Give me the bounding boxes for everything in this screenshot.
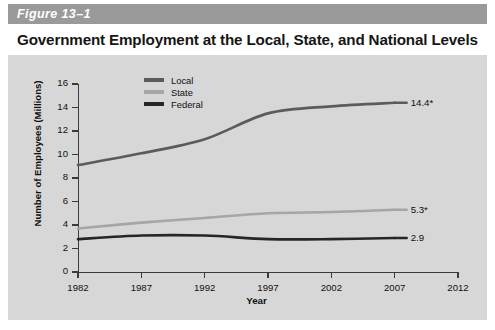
series-line-federal: [78, 235, 395, 239]
figure-number-label: Figure 13–1: [8, 7, 91, 21]
figure-title-bar: Government Employment at the Local, Stat…: [8, 26, 487, 53]
plot-area: [8, 55, 487, 320]
figure-number-band: Figure 13–1: [8, 4, 487, 24]
series-label-local: 14.4*: [411, 97, 434, 108]
chart-panel: Number of Employees (Millions) Year 0246…: [8, 55, 487, 320]
figure-card: Figure 13–1 Government Employment at the…: [0, 0, 495, 330]
series-line-state: [78, 210, 395, 229]
series-line-local: [78, 103, 395, 165]
page-title: Government Employment at the Local, Stat…: [8, 31, 478, 48]
series-label-federal: 2.9: [411, 232, 424, 243]
series-label-state: 5.3*: [411, 204, 428, 215]
